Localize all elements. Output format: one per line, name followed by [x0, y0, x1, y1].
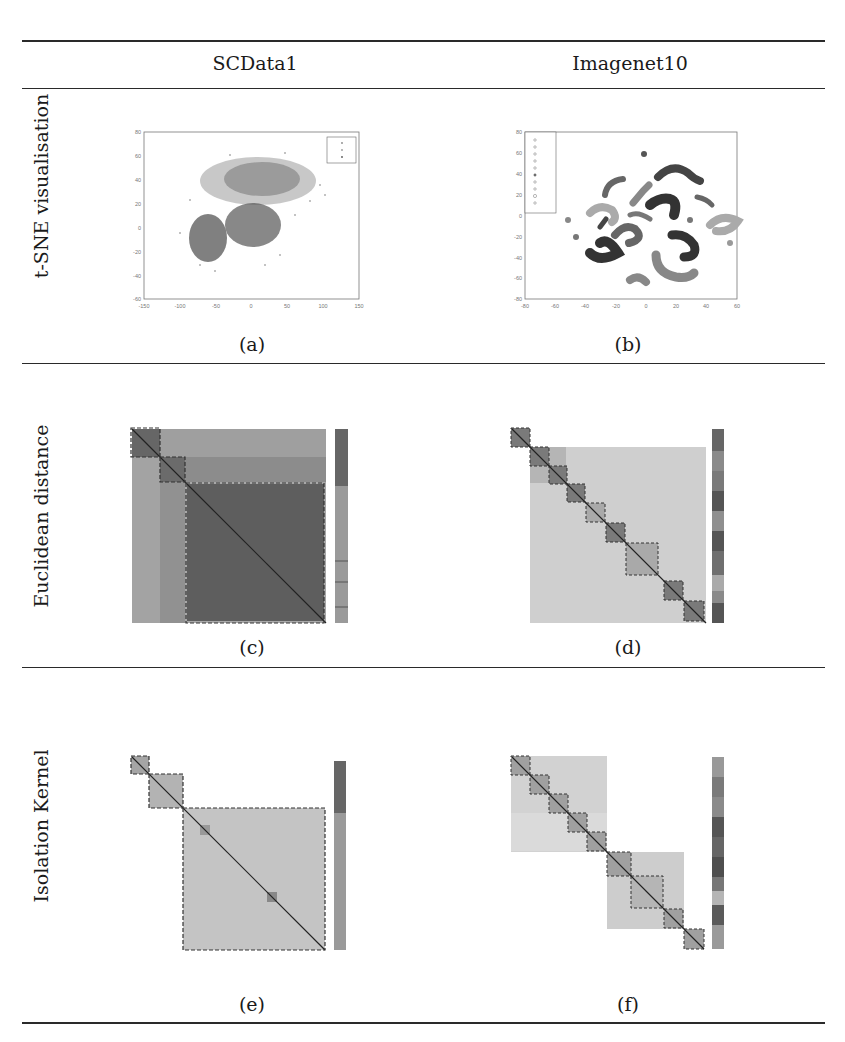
svg-text:20: 20 — [516, 192, 522, 198]
caption-e: (e) — [222, 993, 282, 1015]
caption-d: (d) — [598, 636, 658, 658]
bottom-rule — [22, 1022, 825, 1024]
svg-text:40: 40 — [516, 171, 522, 177]
svg-text:80: 80 — [516, 129, 522, 135]
svg-text:0: 0 — [644, 303, 647, 309]
svg-text:60: 60 — [734, 303, 740, 309]
svg-text:-150: -150 — [138, 303, 149, 309]
tsne-scatter-scdata1: 806040 200-20 -40-60 -150-100-50 050100 … — [120, 125, 380, 324]
svg-text:50: 50 — [284, 303, 290, 309]
top-rule — [22, 40, 825, 42]
column-header-scdata1: SCData1 — [155, 52, 355, 74]
tsne-scatter-imagenet10: 806040 200-20 -40-60-80 -80-60-40 -20020… — [490, 125, 770, 324]
row1-rule — [22, 363, 825, 364]
row-label-tsne: t-SNE visualisation — [30, 56, 52, 316]
svg-text:-60: -60 — [514, 275, 522, 281]
heatmap-euclidean-imagenet10 — [510, 427, 730, 631]
svg-text:0: 0 — [138, 225, 141, 231]
caption-b: (b) — [598, 333, 658, 355]
svg-text:150: 150 — [354, 303, 363, 309]
svg-text:-40: -40 — [514, 255, 522, 261]
svg-text:60: 60 — [135, 153, 141, 159]
svg-text:40: 40 — [135, 177, 141, 183]
heatmap-euclidean-scdata1 — [130, 427, 350, 631]
row-label-isolation-kernel: Isolation Kernel — [30, 696, 52, 956]
svg-text:-60: -60 — [133, 296, 141, 302]
svg-text:-40: -40 — [133, 273, 141, 279]
row2-rule — [22, 667, 825, 668]
heatmap-isolation-kernel-scdata1 — [130, 755, 350, 959]
svg-text:0: 0 — [249, 303, 252, 309]
svg-text:80: 80 — [135, 129, 141, 135]
svg-text:-20: -20 — [612, 303, 620, 309]
svg-text:20: 20 — [673, 303, 679, 309]
header-rule — [22, 88, 825, 89]
svg-text:-100: -100 — [174, 303, 185, 309]
svg-text:0: 0 — [519, 213, 522, 219]
svg-text:100: 100 — [318, 303, 327, 309]
heatmap-isolation-kernel-imagenet10 — [510, 755, 730, 959]
svg-text:-80: -80 — [521, 303, 529, 309]
svg-text:-50: -50 — [212, 303, 220, 309]
svg-text:-40: -40 — [581, 303, 589, 309]
caption-f: (f) — [598, 993, 658, 1015]
caption-a: (a) — [222, 333, 282, 355]
caption-c: (c) — [222, 636, 282, 658]
svg-text:60: 60 — [516, 150, 522, 156]
column-header-imagenet10: Imagenet10 — [530, 52, 730, 74]
svg-text:-20: -20 — [514, 234, 522, 240]
svg-text:40: 40 — [703, 303, 709, 309]
svg-text:-20: -20 — [133, 249, 141, 255]
row-label-euclidean: Euclidean distance — [30, 386, 52, 646]
svg-text:20: 20 — [135, 201, 141, 207]
svg-text:-80: -80 — [514, 296, 522, 302]
svg-text:-60: -60 — [551, 303, 559, 309]
